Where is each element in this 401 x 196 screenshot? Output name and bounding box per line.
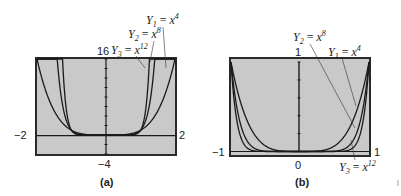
panel-b: −1 1 1 0 (b) Y2 = x8 Y1 = x4 Y3 = x12 [212,29,380,188]
figure: −2 2 16 −4 (a) Y1 = x4 Y2 = x8 Y3 = x12 … [0,0,401,196]
svg-text:Y2 = x8: Y2 = x8 [128,26,161,43]
y-min-label-b: 0 [295,159,301,171]
svg-text:Y2 = x8: Y2 = x8 [293,29,326,46]
y-max-label-a: 16 [97,45,109,57]
svg-text:Y3 = x12: Y3 = x12 [339,159,376,176]
svg-text:Y1 = x4: Y1 = x4 [328,44,361,61]
x-min-label-b: −1 [212,146,225,158]
svg-text:Y3 = x12: Y3 = x12 [111,42,148,59]
caption-b: (b) [295,176,309,188]
plot-area-b [230,58,370,156]
x-min-label-a: −2 [14,129,27,141]
caption-a: (a) [100,176,114,188]
panel-a: −2 2 16 −4 (a) Y1 = x4 Y2 = x8 Y3 = x12 [14,12,185,188]
y-max-label-b: 1 [295,46,301,58]
y-min-label-a: −4 [98,158,111,170]
x-max-label-a: 2 [179,129,185,141]
x-max-label-b: 1 [374,146,380,158]
